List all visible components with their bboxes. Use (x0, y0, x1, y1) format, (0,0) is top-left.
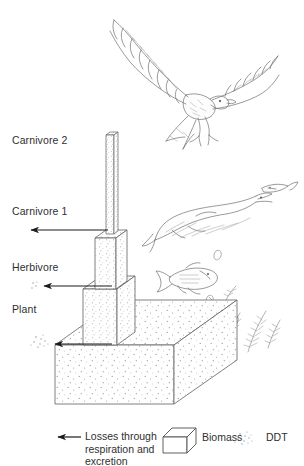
predatory-fish-illustration (142, 182, 298, 252)
legend-biomass-cuboid-icon (163, 428, 196, 453)
legend-biomass-label: Biomass (202, 431, 242, 444)
label-plant: Plant (12, 303, 36, 315)
swallowed-fish-icon (262, 182, 298, 192)
biomass-block-carnivore2 (106, 132, 118, 234)
label-carnivore-2: Carnivore 2 (12, 134, 67, 146)
ddt-marker-plant (30, 334, 48, 347)
diagram-artwork (0, 0, 304, 466)
legend-ddt-label: DDT (266, 431, 288, 444)
small-fish-illustration (156, 263, 217, 294)
figure-canvas: Carnivore 2 Carnivore 1 Herbivore Plant … (0, 0, 304, 466)
legend-losses-label: Losses through respiration and excretion (85, 430, 157, 466)
biomass-block-carnivore1 (95, 230, 127, 289)
label-carnivore-1: Carnivore 1 (12, 205, 67, 217)
label-herbivore: Herbivore (12, 261, 58, 273)
ddt-marker-herbivore (31, 281, 37, 288)
eagle-illustration (110, 20, 279, 149)
biomass-block-plant (55, 300, 237, 404)
